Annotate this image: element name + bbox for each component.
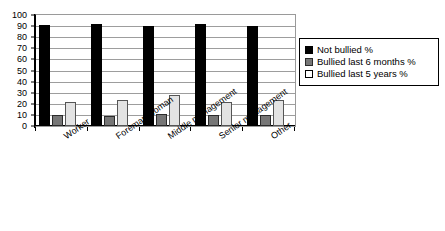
bar [208, 115, 219, 126]
gray-square-swatch-icon [305, 58, 313, 66]
y-tick-label: 40 [17, 77, 27, 86]
y-tick-label: 10 [17, 110, 27, 119]
bar [65, 102, 76, 126]
bar [117, 100, 128, 126]
legend-item: Not bullied % [305, 45, 434, 55]
y-tick-label: 90 [17, 22, 27, 31]
bar [52, 115, 63, 126]
bar [91, 24, 102, 126]
bar-chart: 1009080706050403020100 WorkerForeman/wom… [0, 0, 445, 231]
y-axis: 1009080706050403020100 [0, 8, 35, 133]
y-tick-label: 20 [17, 99, 27, 108]
bar [156, 114, 167, 126]
bar [39, 25, 50, 126]
y-tick-label: 50 [17, 66, 27, 75]
y-tick-label: 60 [17, 55, 27, 64]
legend-item: Bullied last 5 years % [305, 69, 434, 79]
x-axis-labels: WorkerForeman/womanMiddle managementSeni… [0, 127, 310, 207]
bar-group [91, 15, 128, 126]
white-square-swatch-icon [305, 70, 313, 78]
legend-item-label: Not bullied % [317, 45, 373, 55]
y-tick-label: 30 [17, 88, 27, 97]
bar-group [39, 15, 76, 126]
legend-item-label: Bullied last 6 months % [317, 57, 416, 67]
y-tick-label: 100 [12, 11, 27, 20]
legend-item: Bullied last 6 months % [305, 57, 434, 67]
y-tick-label: 80 [17, 33, 27, 42]
y-tick-label: 70 [17, 44, 27, 53]
bar [104, 116, 115, 126]
chart-legend: Not bullied % Bullied last 6 months % Bu… [299, 38, 439, 86]
legend-item-label: Bullied last 5 years % [317, 69, 408, 79]
bar [260, 115, 271, 126]
black-square-swatch-icon [305, 46, 313, 54]
